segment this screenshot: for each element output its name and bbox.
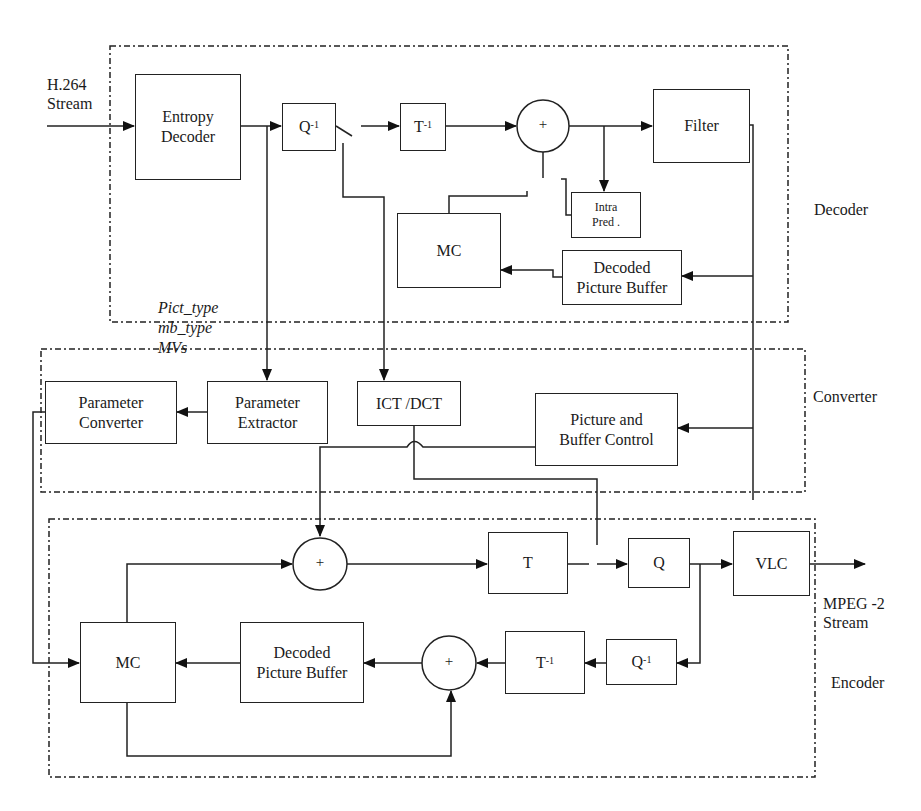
decoder-inverse-quant-block: Q-1 [282, 103, 336, 151]
encoder-quant-block: Q [628, 538, 690, 588]
encoder-inverse-transform-block: T-1 [505, 631, 585, 694]
decoder-inverse-transform-block: T-1 [400, 103, 446, 151]
encoder-section-label: Encoder [831, 673, 884, 692]
decoder-section-label: Decoder [814, 200, 868, 219]
intra-pred-block: IntraPred . [571, 192, 641, 238]
parameter-extractor-block: ParameterExtractor [207, 381, 328, 444]
encoder-dpb-block: DecodedPicture Buffer [240, 622, 364, 703]
vlc-block: VLC [733, 531, 810, 596]
decoder-dpb-block: DecodedPicture Buffer [562, 250, 682, 305]
encoder-inverse-quant-block: Q-1 [606, 639, 677, 685]
parameter-converter-block: ParameterConverter [45, 381, 177, 444]
converter-section-label: Converter [813, 387, 877, 406]
encoder-recon-adder-plus: + [439, 653, 459, 670]
output-stream-label: MPEG -2 Stream [823, 594, 885, 632]
ict-dct-block: ICT /DCT [357, 381, 461, 426]
entropy-decoder-block: EntropyDecoder [135, 74, 241, 180]
encoder-adder-plus: + [310, 554, 330, 571]
decoder-mc-block: MC [397, 213, 501, 288]
input-stream-label: H.264 Stream [47, 75, 92, 113]
decoder-adder-plus: + [533, 116, 553, 133]
picture-buffer-control-block: Picture andBuffer Control [535, 393, 678, 466]
encoder-transform-block: T [488, 532, 568, 594]
side-info-label: Pict_type mb_type MVs [158, 298, 218, 358]
encoder-mc-block: MC [80, 622, 176, 703]
filter-block: Filter [653, 89, 750, 163]
